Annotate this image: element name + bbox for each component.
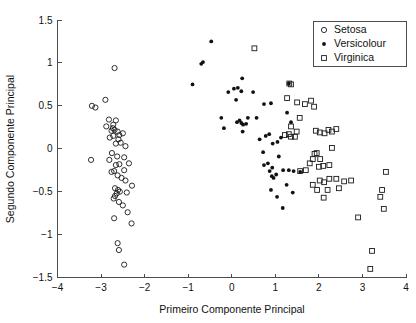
- x-tick-label: −4: [52, 282, 64, 293]
- data-point: [236, 86, 240, 90]
- x-tick-label: 3: [360, 282, 366, 293]
- data-point: [255, 116, 259, 120]
- y-tick-label: 0.5: [39, 100, 53, 111]
- y-axis-title: Segundo Componente Principal: [4, 75, 16, 223]
- data-point: [277, 155, 281, 159]
- data-point: [285, 111, 289, 115]
- data-point: [281, 168, 285, 172]
- data-point: [234, 98, 238, 102]
- data-point: [291, 191, 295, 195]
- data-point: [266, 161, 270, 165]
- y-tick-label: −1: [41, 229, 53, 240]
- data-point: [270, 166, 274, 170]
- data-point: [191, 82, 195, 86]
- data-point: [222, 126, 226, 130]
- y-tick-label: −1.5: [33, 272, 53, 283]
- data-point: [289, 120, 293, 124]
- data-point: [287, 168, 291, 172]
- data-point: [281, 206, 285, 210]
- data-point: [226, 90, 230, 94]
- data-point: [258, 137, 262, 141]
- x-tick-label: 1: [273, 282, 279, 293]
- data-point: [232, 87, 236, 91]
- scatter-plot-canvas: −4−3−2−101234 −1.5−1−0.500.511.5 Primeir…: [0, 0, 416, 323]
- x-tick-label: 2: [316, 282, 322, 293]
- data-point: [268, 169, 272, 173]
- data-point: [269, 188, 273, 192]
- legend-label-setosa: Setosa: [334, 23, 367, 35]
- data-point: [251, 90, 255, 94]
- data-point: [274, 173, 278, 177]
- data-point: [269, 101, 273, 105]
- legend-label-virginica: Virginica: [334, 51, 374, 63]
- data-point: [272, 176, 276, 180]
- data-point: [246, 116, 250, 120]
- data-point: [241, 130, 245, 134]
- data-point: [239, 89, 243, 93]
- y-tick-label: 0: [47, 143, 53, 154]
- data-point: [267, 132, 271, 136]
- data-point: [292, 169, 296, 173]
- data-point: [285, 183, 289, 187]
- data-point: [275, 195, 279, 199]
- data-point: [271, 142, 275, 146]
- data-point: [262, 102, 266, 106]
- x-tick-label: 0: [229, 282, 235, 293]
- pca-scatter-figure: −4−3−2−101234 −1.5−1−0.500.511.5 Primeir…: [0, 0, 416, 323]
- x-tick-label: −2: [139, 282, 151, 293]
- data-point: [262, 163, 266, 167]
- data-point: [276, 140, 280, 144]
- data-point: [199, 62, 203, 66]
- x-tick-label: 4: [403, 282, 409, 293]
- data-point: [264, 134, 268, 138]
- x-axis-title: Primeiro Componente Principal: [159, 303, 304, 315]
- legend-label-versicolour: Versicolour: [334, 37, 386, 49]
- x-tick-label: −1: [182, 282, 194, 293]
- data-point: [209, 40, 213, 44]
- data-point: [261, 150, 265, 154]
- y-tick-label: 1.5: [39, 15, 53, 26]
- y-tick-label: −0.5: [33, 186, 53, 197]
- x-tick-label: −3: [95, 282, 107, 293]
- data-point: [240, 76, 244, 80]
- data-point: [244, 122, 248, 126]
- data-point: [219, 116, 223, 120]
- y-tick-label: 1: [47, 57, 53, 68]
- legend: SetosaVersicolourVirginica: [314, 22, 407, 67]
- legend-marker-versicolour: [322, 42, 326, 46]
